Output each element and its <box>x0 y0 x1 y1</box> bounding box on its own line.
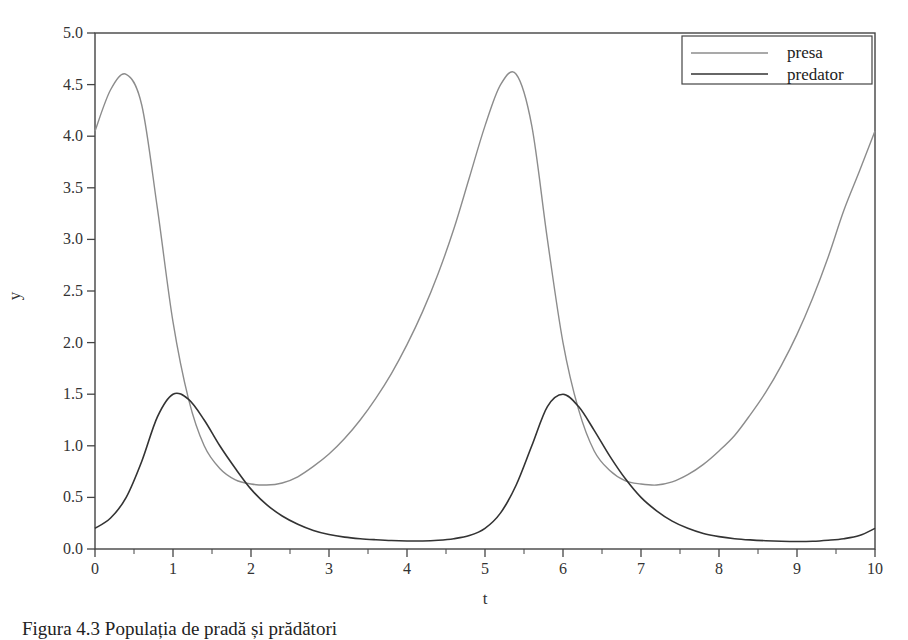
y-tick-label: 5.0 <box>63 24 83 41</box>
legend: presa predator <box>682 36 872 84</box>
y-tick-label: 3.0 <box>63 230 83 247</box>
x-tick-label: 10 <box>867 560 883 577</box>
x-tick-label: 8 <box>715 560 723 577</box>
legend-label-presa: presa <box>787 43 823 62</box>
x-tick-label: 2 <box>247 560 255 577</box>
x-axis-ticks: 012345678910 <box>91 549 883 577</box>
y-tick-label: 4.0 <box>63 127 83 144</box>
plot-frame <box>95 33 875 549</box>
y-tick-label: 4.5 <box>63 76 83 93</box>
y-axis-label: y <box>5 291 24 300</box>
x-tick-label: 5 <box>481 560 489 577</box>
x-tick-label: 6 <box>559 560 567 577</box>
y-tick-label: 2.5 <box>63 282 83 299</box>
y-axis-ticks: 0.00.51.01.52.02.53.03.54.04.55.0 <box>63 24 95 557</box>
x-tick-label: 1 <box>169 560 177 577</box>
x-tick-label: 3 <box>325 560 333 577</box>
x-axis-label: t <box>483 589 488 608</box>
y-tick-label: 1.0 <box>63 437 83 454</box>
y-tick-label: 2.0 <box>63 334 83 351</box>
x-tick-label: 9 <box>793 560 801 577</box>
y-tick-label: 1.5 <box>63 385 83 402</box>
y-tick-label: 0.5 <box>63 488 83 505</box>
x-tick-label: 7 <box>637 560 645 577</box>
x-tick-label: 4 <box>403 560 411 577</box>
x-tick-label: 0 <box>91 560 99 577</box>
y-tick-label: 3.5 <box>63 179 83 196</box>
legend-label-predator: predator <box>787 65 844 84</box>
figure-caption: Figura 4.3 Populația de pradă și prădăto… <box>22 618 337 640</box>
y-tick-label: 0.0 <box>63 540 83 557</box>
